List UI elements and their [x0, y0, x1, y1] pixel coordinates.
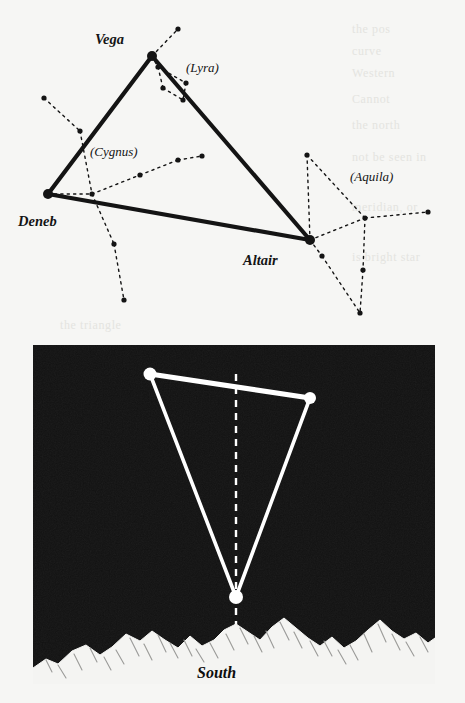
- south-direction-label-group: South: [197, 664, 236, 681]
- upper-left-star: [144, 368, 157, 381]
- upper-right-star: [304, 392, 316, 404]
- bottom-sky-panel: South: [0, 0, 465, 703]
- figure-page: the poscurveWesternCannotthe northnot be…: [0, 0, 465, 703]
- south-direction-label: South: [197, 664, 236, 681]
- lower-star: [229, 590, 243, 604]
